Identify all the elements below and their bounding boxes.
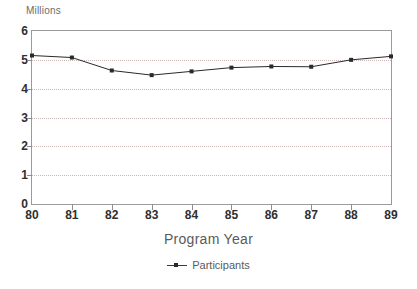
x-tick-label-81: 81	[52, 208, 92, 222]
y-tick-mark-5	[27, 60, 32, 61]
y-axis-unit-label: Millions	[26, 5, 61, 16]
y-tick-mark-4	[27, 89, 32, 90]
x-tick-mark-86	[271, 205, 272, 210]
x-tick-mark-87	[311, 205, 312, 210]
y-tick-mark-2	[27, 146, 32, 147]
y-tick-mark-3	[27, 118, 32, 119]
legend-item-participants: Participants	[192, 259, 249, 271]
data-point-86	[269, 64, 273, 68]
y-tick-mark-1	[27, 175, 32, 176]
series-line-participants	[32, 56, 391, 76]
data-point-82	[110, 69, 114, 73]
data-point-84	[190, 69, 194, 73]
y-tick-label-1: 1	[8, 168, 28, 182]
x-tick-label-84: 84	[172, 208, 212, 222]
data-point-89	[389, 54, 393, 58]
x-tick-label-82: 82	[92, 208, 132, 222]
data-point-83	[150, 73, 154, 77]
y-tick-label-2: 2	[8, 139, 28, 153]
y-tick-label-3: 3	[8, 111, 28, 125]
data-point-81	[70, 56, 74, 60]
x-tick-label-89: 89	[371, 208, 411, 222]
x-tick-mark-85	[231, 205, 232, 210]
chart-container: Millions 0123456 80818283848586878889 Pr…	[0, 0, 417, 289]
y-tick-label-6: 6	[8, 24, 28, 38]
x-tick-label-85: 85	[211, 208, 251, 222]
x-tick-label-87: 87	[291, 208, 331, 222]
x-tick-mark-88	[351, 205, 352, 210]
plot-area	[31, 30, 392, 205]
data-point-85	[229, 66, 233, 70]
y-tick-label-5: 5	[8, 53, 28, 67]
data-point-88	[349, 58, 353, 62]
series-participants	[32, 31, 391, 204]
x-tick-label-86: 86	[251, 208, 291, 222]
x-tick-label-80: 80	[12, 208, 52, 222]
y-tick-label-4: 4	[8, 82, 28, 96]
x-tick-mark-84	[192, 205, 193, 210]
line-marker-icon	[167, 261, 187, 270]
data-point-87	[309, 65, 313, 69]
x-tick-mark-83	[152, 205, 153, 210]
x-tick-label-88: 88	[331, 208, 371, 222]
x-tick-mark-81	[72, 205, 73, 210]
data-point-80	[30, 54, 34, 58]
chart-legend: Participants	[0, 259, 417, 271]
x-axis-title: Program Year	[0, 231, 417, 247]
x-tick-mark-82	[112, 205, 113, 210]
x-tick-label-83: 83	[132, 208, 172, 222]
